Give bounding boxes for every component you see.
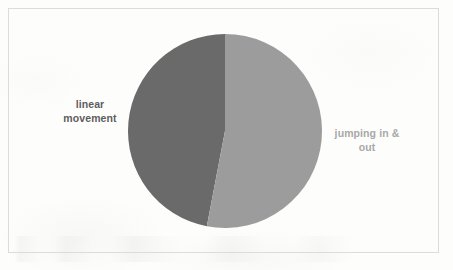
pie-slice-label-jumping-in-out: jumping in & out	[318, 127, 416, 154]
pie-chart-page: linear movement jumping in & out	[0, 0, 453, 270]
pie-slice-linear-movement[interactable]	[128, 34, 225, 226]
pie-slice-label-linear-movement: linear movement	[44, 98, 136, 125]
